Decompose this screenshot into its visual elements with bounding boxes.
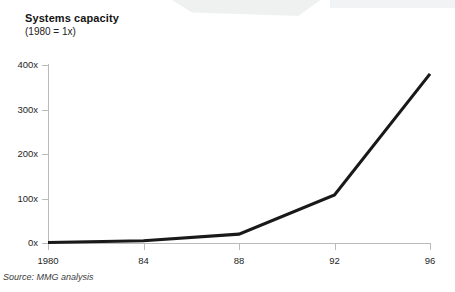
source-note: Source: MMG analysis	[3, 272, 94, 282]
series-line-systems-capacity	[48, 74, 430, 243]
